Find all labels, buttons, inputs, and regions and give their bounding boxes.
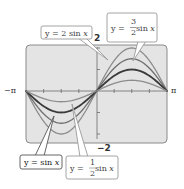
callout-text-prefix: y = [110, 24, 125, 33]
sine-amplitude-chart: −π π 2 −2 y = 2 sin x y = 3 2 sin x y = … [0, 0, 184, 189]
x-min-label: −π [4, 86, 16, 95]
callout-text: y = 2 sin [44, 29, 83, 38]
y-max-label: 2 [94, 33, 100, 43]
callout-prefix: y = [69, 164, 84, 173]
svg-text:sin x: sin x [95, 164, 114, 173]
callout-var: x [150, 24, 155, 33]
callout-var: x [55, 158, 60, 167]
callout-prefix: y = [110, 24, 125, 33]
svg-text:y = 2 sin x: y = 2 sin x [44, 29, 88, 38]
svg-text:sin x: sin x [136, 24, 155, 33]
callout-text: y = sin [23, 158, 55, 167]
callout-var: x [109, 164, 114, 173]
svg-text:y =: y = [69, 164, 84, 173]
callout-suffix: sin [95, 164, 109, 173]
plot-area [26, 45, 167, 143]
callout-suffix: sin [136, 24, 150, 33]
y-min-label: −2 [97, 143, 111, 153]
callout-var: x [83, 29, 88, 38]
svg-text:y = sin x: y = sin x [23, 158, 60, 167]
x-max-label: π [171, 86, 176, 95]
